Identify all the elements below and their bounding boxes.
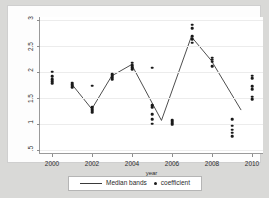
y-tick-label-text: 2.5 [28, 42, 35, 51]
legend-label-coefficient: coefficient [161, 180, 190, 187]
x-tick-label: 2008 [205, 161, 219, 168]
data-point-coefficient [51, 82, 54, 85]
y-tick-label-text: 1 [28, 120, 35, 124]
line-swatch-icon [80, 183, 102, 184]
plot-card: year 32.521.51.5200020022004200620082010 [7, 5, 261, 163]
data-point-coefficient [251, 88, 254, 91]
dot-swatch-icon [154, 182, 157, 185]
legend-label-median-bands: Median bands [106, 180, 147, 187]
data-point-coefficient [151, 118, 154, 121]
data-point-coefficient [91, 111, 94, 114]
y-tick-label-text: .5 [28, 146, 35, 151]
plot-area: year 32.521.51.5200020022004200620082010 [39, 17, 263, 154]
x-tick-mark [92, 154, 93, 157]
y-gridline [40, 72, 263, 73]
data-point-coefficient [251, 77, 254, 80]
y-gridline [40, 46, 263, 47]
data-point-coefficient [91, 84, 94, 87]
data-point-coefficient [131, 68, 134, 71]
data-point-coefficient [151, 66, 154, 69]
y-tick-label-text: 1.5 [28, 94, 35, 103]
chart-legend: Median bands coefficient [68, 176, 202, 191]
median-bands-line [40, 17, 263, 153]
y-tick-mark [37, 20, 40, 21]
data-point-coefficient [151, 122, 154, 125]
data-point-coefficient [231, 125, 234, 128]
data-point-coefficient [211, 65, 214, 68]
x-tick-label: 2006 [165, 161, 179, 168]
chart-figure: year 32.521.51.5200020022004200620082010… [0, 0, 269, 198]
y-tick-mark [37, 72, 40, 73]
legend-item-median-bands: Median bands [80, 180, 147, 187]
x-tick-label: 2004 [125, 161, 139, 168]
data-point-coefficient [151, 106, 154, 109]
x-tick-label: 2002 [85, 161, 99, 168]
data-point-coefficient [191, 41, 194, 44]
y-tick-label-text: 3 [28, 16, 35, 20]
y-tick-mark [37, 124, 40, 125]
data-point-coefficient [231, 118, 234, 121]
x-tick-mark [252, 154, 253, 157]
data-point-coefficient [191, 27, 194, 30]
data-point-coefficient [151, 113, 154, 116]
data-point-coefficient [251, 98, 254, 101]
y-tick-mark [37, 98, 40, 99]
x-tick-label: 2010 [245, 161, 259, 168]
data-point-coefficient [211, 61, 214, 64]
y-tick-mark [37, 150, 40, 151]
x-tick-mark [212, 154, 213, 157]
y-tick-label-text: 2 [28, 68, 35, 72]
y-tick-mark [37, 46, 40, 47]
data-point-coefficient [51, 70, 54, 73]
data-point-coefficient [231, 131, 234, 134]
data-point-coefficient [231, 135, 234, 138]
data-point-coefficient [171, 124, 174, 127]
data-point-coefficient [71, 86, 74, 89]
y-gridline [40, 98, 263, 99]
x-tick-mark [52, 154, 53, 157]
legend-item-coefficient: coefficient [154, 180, 190, 187]
data-point-coefficient [111, 78, 114, 81]
x-tick-label: 2000 [45, 161, 59, 168]
y-gridline [40, 20, 263, 21]
x-tick-mark [172, 154, 173, 157]
y-gridline [40, 150, 263, 151]
x-tick-mark [132, 154, 133, 157]
